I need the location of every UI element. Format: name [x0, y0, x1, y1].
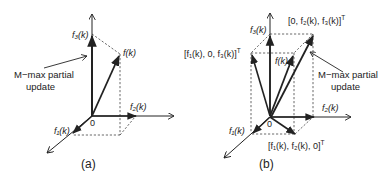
panel-b-label-top-right: [0, f₂(k), f₃(k)]T	[288, 14, 345, 26]
panel-a-annotation-line1: M−max partial	[14, 69, 74, 80]
panel-b-bottom-vector	[270, 117, 295, 134]
panel-b: f₃(k) [0, f₂(k), f₃(k)]T [f₁(k), 0, f₃(k…	[184, 13, 378, 171]
panel-b-label-origin: 0	[267, 119, 272, 129]
panel-b-label-top-right-text: [0, f₂(k), f₃(k)]	[288, 16, 341, 26]
panel-a: f₃(k) f(k) f₂(k) f₁(k) 0 M−max partial u…	[14, 14, 174, 171]
panel-b-top-left-vector	[252, 55, 270, 116]
panel-b-annotation-line1: M−max partial	[318, 69, 378, 80]
panel-b-label-top-left-sup: T	[237, 47, 241, 54]
panel-b-label-fk: f(k)	[275, 56, 288, 66]
panel-a-caption: (a)	[81, 157, 96, 171]
panel-b-annotation-line2: update	[331, 81, 360, 92]
panel-b-label-top-right-sup: T	[341, 14, 345, 21]
panel-a-fk-vector	[92, 56, 119, 116]
panel-a-annotation-line2: update	[26, 81, 55, 92]
panel-a-label-f2: f₂(k)	[130, 102, 146, 112]
panel-b-caption: (b)	[259, 157, 274, 171]
panel-b-label-top-left: [f₁(k), 0, f₃(k)]T	[184, 47, 241, 59]
panel-b-label-top-left-text: [f₁(k), 0, f₃(k)]	[184, 49, 237, 59]
panel-b-label-f1: f₁(k)	[229, 126, 245, 136]
panel-a-label-fk: f(k)	[123, 48, 136, 58]
panel-b-label-f2: f₂(k)	[322, 103, 338, 113]
panel-a-label-f3: f₃(k)	[72, 30, 89, 40]
panel-b-label-bottom: [f₁(k), f₂(k), 0]T	[268, 139, 325, 151]
figure-canvas: f₃(k) f(k) f₂(k) f₁(k) 0 M−max partial u…	[0, 0, 390, 183]
panel-b-label-bottom-text: [f₁(k), f₂(k), 0]	[268, 141, 321, 151]
panel-b-label-bottom-sup: T	[321, 139, 325, 146]
panel-a-annotation-arrow	[44, 56, 87, 68]
panel-b-label-f3: f₃(k)	[250, 25, 267, 35]
panel-b-top-right-vector	[271, 36, 313, 117]
panel-a-label-f1: f₁(k)	[54, 126, 70, 136]
panel-a-label-origin: 0	[90, 118, 95, 128]
